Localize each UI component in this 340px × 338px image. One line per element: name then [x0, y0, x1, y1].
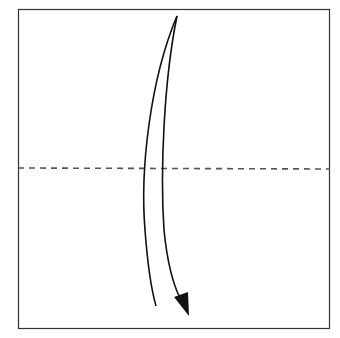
valley-fold-line	[18, 168, 330, 169]
origami-diagram	[0, 0, 340, 338]
